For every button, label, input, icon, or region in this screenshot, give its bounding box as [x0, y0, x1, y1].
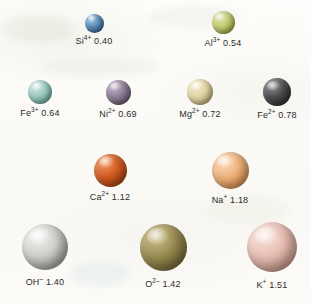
scan-artifact: [40, 58, 160, 76]
ion-sphere-wrap-si4: [85, 14, 104, 33]
ion-charge-mg2: 2+: [192, 107, 200, 114]
ion-label-si4: Si4+ 0.40: [34, 36, 154, 47]
ion-sphere-ni2[interactable]: [106, 80, 131, 105]
ion-sphere-oh1[interactable]: [22, 224, 68, 270]
ion-charge-ca2: 2+: [102, 190, 110, 197]
ion-sphere-wrap-oh1: [22, 224, 68, 270]
ion-radius-value-ni2: 0.69: [116, 109, 137, 119]
ion-sphere-wrap-mg2: [187, 79, 213, 105]
ion-sphere-o2[interactable]: [140, 224, 187, 271]
ion-sphere-wrap-al3: [212, 11, 235, 34]
ion-element-symbol-ca2: Ca: [90, 192, 102, 202]
ion-charge-ni2: 2+: [108, 107, 116, 114]
ion-radius-value-na1: 1.18: [227, 195, 248, 205]
ion-sphere-fe3[interactable]: [28, 80, 52, 104]
ion-label-na1: Na+ 1.18: [170, 195, 290, 206]
ion-radius-value-fe2: 0.78: [276, 110, 297, 120]
ion-sphere-wrap-na1: [212, 152, 249, 189]
ion-sphere-wrap-ni2: [106, 80, 131, 105]
ionic-radii-figure: Si4+ 0.40Al3+ 0.54Fe3+ 0.64Ni2+ 0.69Mg2+…: [0, 0, 311, 304]
ion-radius-value-oh1: 1.40: [43, 277, 64, 287]
ion-group-oh1[interactable]: OH– 1.40: [0, 224, 105, 288]
ion-sphere-wrap-fe2: [263, 78, 291, 106]
ion-label-o2: O2– 1.42: [103, 279, 223, 290]
ion-element-symbol-oh1: OH: [26, 277, 40, 287]
ion-group-k1[interactable]: K+ 1.51: [212, 222, 311, 291]
ion-group-na1[interactable]: Na+ 1.18: [170, 152, 290, 206]
ion-label-ca2: Ca2+ 1.12: [50, 192, 170, 203]
ion-element-symbol-fe2: Fe: [257, 110, 268, 120]
ion-element-symbol-na1: Na: [212, 195, 224, 205]
ion-sphere-wrap-fe3: [28, 80, 52, 104]
ion-element-symbol-al3: Al: [205, 38, 213, 48]
ion-radius-value-al3: 0.54: [220, 38, 241, 48]
ion-radius-value-o2: 1.42: [160, 279, 181, 289]
ion-sphere-ca2[interactable]: [94, 154, 127, 187]
ion-sphere-al3[interactable]: [212, 11, 235, 34]
ion-sphere-si4[interactable]: [85, 14, 104, 33]
ion-label-al3: Al3+ 0.54: [163, 38, 283, 49]
ion-group-ca2[interactable]: Ca2+ 1.12: [50, 154, 170, 203]
ion-radius-value-ca2: 1.12: [109, 192, 130, 202]
ion-radius-value-si4: 0.40: [91, 36, 112, 46]
ion-sphere-wrap-o2: [140, 224, 187, 271]
ion-group-si4[interactable]: Si4+ 0.40: [34, 14, 154, 47]
ion-label-k1: K+ 1.51: [212, 280, 311, 291]
ion-label-fe2: Fe2+ 0.78: [217, 110, 311, 121]
ion-element-symbol-mg2: Mg: [179, 109, 192, 119]
ion-radius-value-k1: 1.51: [266, 280, 287, 290]
ion-element-symbol-si4: Si: [76, 36, 84, 46]
ion-charge-fe2: 2+: [268, 108, 276, 115]
ion-group-al3[interactable]: Al3+ 0.54: [163, 11, 283, 49]
ion-element-symbol-ni2: Ni: [99, 109, 108, 119]
ion-sphere-fe2[interactable]: [263, 78, 291, 106]
ion-radius-value-fe3: 0.64: [39, 108, 60, 118]
ion-sphere-na1[interactable]: [212, 152, 249, 189]
ion-sphere-wrap-ca2: [94, 154, 127, 187]
ion-label-oh1: OH– 1.40: [0, 277, 105, 288]
ion-charge-o2: 2–: [152, 277, 159, 284]
ion-sphere-wrap-k1: [247, 222, 297, 272]
ion-sphere-mg2[interactable]: [187, 79, 213, 105]
ion-charge-fe3: 3+: [31, 106, 39, 113]
ion-sphere-k1[interactable]: [247, 222, 297, 272]
ion-group-o2[interactable]: O2– 1.42: [103, 224, 223, 290]
ion-element-symbol-fe3: Fe: [20, 108, 31, 118]
ion-group-fe2[interactable]: Fe2+ 0.78: [217, 78, 311, 121]
